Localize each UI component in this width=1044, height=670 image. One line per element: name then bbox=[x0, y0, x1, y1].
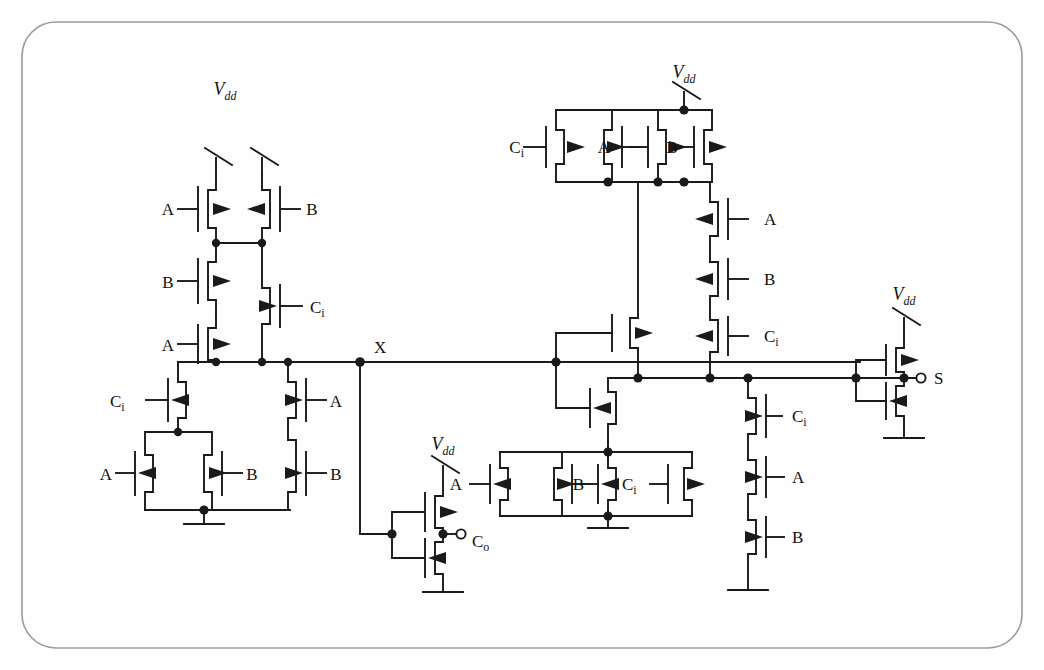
page-background bbox=[0, 0, 1044, 670]
label-a-top-right: A bbox=[598, 138, 611, 157]
s-terminal-ring bbox=[916, 373, 925, 382]
label-b-top-right: B bbox=[666, 138, 677, 157]
label-b-left-3: B bbox=[246, 465, 257, 484]
label-b-low-right: B bbox=[792, 528, 803, 547]
label-a-low-right: A bbox=[792, 468, 805, 487]
node-dot-x2 bbox=[258, 358, 266, 366]
label-b-ser-right: B bbox=[764, 270, 775, 289]
label-a-left-1: A bbox=[162, 200, 175, 219]
co-terminal-ring bbox=[456, 529, 465, 538]
circuit-schematic: Vdd A B B A Ci Ci A A B B X Vdd Co Vdd C… bbox=[0, 0, 1044, 670]
label-a-left-4: A bbox=[100, 465, 113, 484]
label-b-left-4: B bbox=[330, 465, 341, 484]
label-b-bot-mid: B bbox=[573, 475, 584, 494]
label-b-left-1: B bbox=[306, 200, 317, 219]
figure-canvas: Vdd A B B A Ci Ci A A B B X Vdd Co Vdd C… bbox=[0, 0, 1044, 670]
node-dot-sp1 bbox=[603, 177, 612, 186]
label-a-ser-right: A bbox=[764, 210, 777, 229]
node-dot-sp3 bbox=[679, 177, 688, 186]
label-a-bot-mid: A bbox=[450, 475, 463, 494]
node-dot-sp2 bbox=[653, 177, 662, 186]
label-b-left-2: B bbox=[162, 273, 173, 292]
label-a-left-2: A bbox=[162, 336, 175, 355]
node-dot-x1 bbox=[212, 358, 220, 366]
label-node-x: X bbox=[374, 338, 386, 357]
label-a-left-3: A bbox=[330, 392, 343, 411]
label-s-terminal: S bbox=[934, 369, 943, 388]
